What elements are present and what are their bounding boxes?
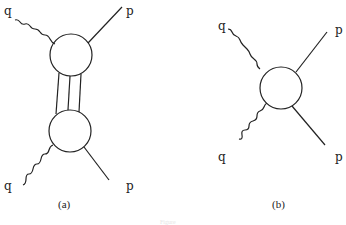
photon-line-q-top: [15, 20, 55, 44]
fermion-line-p-bottom: [292, 106, 325, 145]
ladder-rungs: [56, 73, 81, 114]
fermion-line-p-top: [296, 32, 327, 72]
photon-line-q-bottom: [23, 145, 53, 185]
feynman-diagram-figure: q p q p (a) q p q p (b) Figure: [0, 0, 346, 225]
label-q-top-b: q: [218, 19, 226, 33]
blob: [260, 67, 302, 109]
panel-label-a: (a): [58, 198, 71, 211]
upper-blob: [50, 34, 92, 76]
label-q-top-a: q: [4, 4, 12, 18]
panel-a: q p q p (a): [4, 4, 134, 211]
figure-caption: Figure: [160, 219, 176, 225]
lower-blob: [49, 110, 91, 152]
photon-line-q-top: [228, 29, 260, 69]
label-q-bottom-b: q: [218, 150, 226, 164]
panel-label-b: (b): [272, 198, 285, 211]
fermion-line-p-top: [88, 7, 122, 43]
photon-line-q-bottom: [239, 103, 267, 139]
label-q-bottom-a: q: [4, 179, 12, 193]
label-p-top-b: p: [335, 23, 343, 37]
panel-b: q p q p (b): [218, 19, 343, 211]
fermion-line-p-bottom: [84, 147, 109, 180]
label-p-bottom-b: p: [335, 150, 343, 164]
label-p-bottom-a: p: [126, 179, 134, 193]
label-p-top-a: p: [126, 4, 134, 18]
